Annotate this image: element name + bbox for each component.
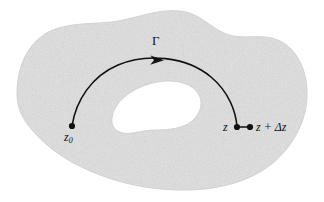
- point-z-plus-delta-z-marker: [247, 124, 253, 130]
- contour-diagram-figure: z0 z z + Δz Γ: [0, 0, 324, 202]
- label-z: z: [223, 121, 228, 133]
- label-gamma: Γ: [152, 34, 160, 47]
- label-z0-subscript: 0: [69, 136, 73, 145]
- domain-region: [0, 0, 324, 202]
- point-z-marker: [234, 124, 240, 130]
- point-z0-marker: [69, 123, 75, 129]
- label-z-plus-delta-z: z + Δz: [256, 121, 286, 133]
- label-z0: z0: [64, 131, 73, 145]
- diagram-canvas: [0, 0, 324, 202]
- domain-fill: [0, 0, 324, 202]
